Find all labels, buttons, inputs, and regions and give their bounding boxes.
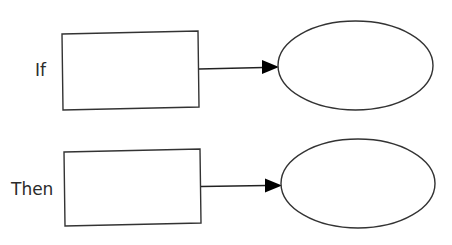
if-arrow-line <box>199 68 264 70</box>
then-outcome-ellipse[interactable] <box>281 139 435 228</box>
diagram-svg <box>0 0 452 245</box>
if-arrowhead-icon <box>262 60 279 74</box>
if-label: If <box>35 62 46 79</box>
if-condition-box[interactable] <box>62 31 199 110</box>
then-arrow-line <box>201 186 267 187</box>
then-label: Then <box>11 181 53 198</box>
if-row <box>62 21 433 110</box>
then-arrowhead-icon <box>265 179 282 193</box>
diagram-canvas: If Then <box>0 0 452 245</box>
if-outcome-ellipse[interactable] <box>278 21 433 110</box>
then-condition-box[interactable] <box>64 149 201 226</box>
then-row <box>64 139 435 228</box>
